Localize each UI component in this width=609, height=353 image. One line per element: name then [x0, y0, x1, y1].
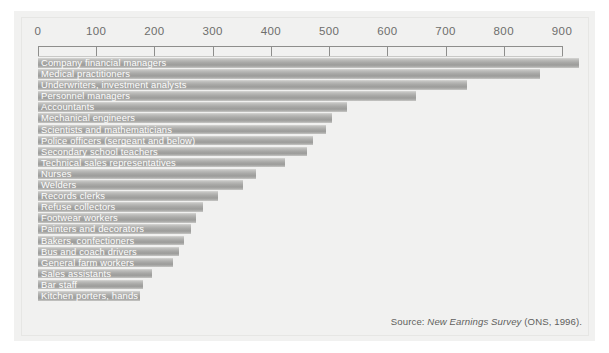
bar-label: Scientists and mathematicians	[41, 124, 172, 135]
x-axis-tick-mark	[387, 46, 388, 56]
axis-line-top	[38, 46, 563, 47]
source-suffix: (ONS, 1996).	[522, 316, 582, 327]
x-axis-tick-mark	[38, 46, 39, 56]
bar-label: Welders	[41, 179, 76, 190]
x-axis-tick-mark	[446, 46, 447, 56]
bar-label: Underwriters, investment analysts	[41, 79, 187, 90]
source-title: New Earnings Survey	[427, 316, 521, 327]
bar-label: Secondary school teachers	[41, 146, 158, 157]
chart-figure: 0100200300400500600700800900 Company fin…	[0, 0, 609, 353]
bar-label: Company financial managers	[41, 57, 166, 68]
x-axis-tick-label: 400	[261, 25, 281, 37]
bar-label: General farm workers	[41, 257, 134, 268]
x-axis-tick-label: 200	[144, 25, 164, 37]
bar-row: Kitchen porters, hands	[38, 291, 563, 302]
x-axis-tick-mark	[154, 46, 155, 56]
bar-label: Technical sales representatives	[41, 157, 176, 168]
x-axis-tick-mark	[96, 46, 97, 56]
source-label: Source:	[391, 316, 428, 327]
x-axis-tick-label: 100	[86, 25, 106, 37]
bar-label: Records clerks	[41, 190, 105, 201]
x-axis-tick-mark	[271, 46, 272, 56]
bar-label: Bakers, confectioners	[41, 235, 134, 246]
bar-row: Personnel managers	[38, 91, 563, 102]
x-axis-tick-mark	[562, 46, 563, 56]
bar-row: Welders	[38, 180, 563, 191]
bar-row: Records clerks	[38, 191, 563, 202]
bar-row: Nurses	[38, 169, 563, 180]
bar-label: Bus and coach drivers	[41, 246, 137, 257]
bar-label: Medical practitioners	[41, 68, 130, 79]
bar-label: Painters and decorators	[41, 223, 144, 234]
bar-label: Refuse collectors	[41, 201, 115, 212]
x-axis-tick-label: 600	[377, 25, 397, 37]
bars-container: Company financial managersMedical practi…	[38, 58, 563, 306]
bar-label: Bar staff	[41, 279, 77, 290]
x-axis-tick-label: 300	[202, 25, 222, 37]
bar-label: Nurses	[41, 168, 72, 179]
x-axis-tick-label: 500	[319, 25, 339, 37]
x-axis-tick-mark	[329, 46, 330, 56]
bar-row: Technical sales representatives	[38, 158, 563, 169]
bar-label: Personnel managers	[41, 90, 130, 101]
x-axis-tick-mark	[504, 46, 505, 56]
x-axis-tick-mark	[213, 46, 214, 56]
x-axis-tick-label: 800	[494, 25, 514, 37]
bar-label: Accountants	[41, 101, 94, 112]
bar-label: Mechanical engineers	[41, 112, 135, 123]
x-axis-tick-label: 900	[552, 25, 572, 37]
bar-label: Police officers (sergeant and below)	[41, 135, 195, 146]
x-axis-tick-label: 0	[35, 25, 42, 37]
bar-row: General farm workers	[38, 258, 563, 269]
x-axis-tick-label: 700	[435, 25, 455, 37]
bar-label: Sales assistants	[41, 268, 111, 279]
bar-label: Footwear workers	[41, 212, 118, 223]
bar-row: Sales assistants	[38, 269, 563, 280]
bar-label: Kitchen porters, hands	[41, 290, 138, 301]
source-note: Source: New Earnings Survey (ONS, 1996).	[391, 316, 582, 327]
